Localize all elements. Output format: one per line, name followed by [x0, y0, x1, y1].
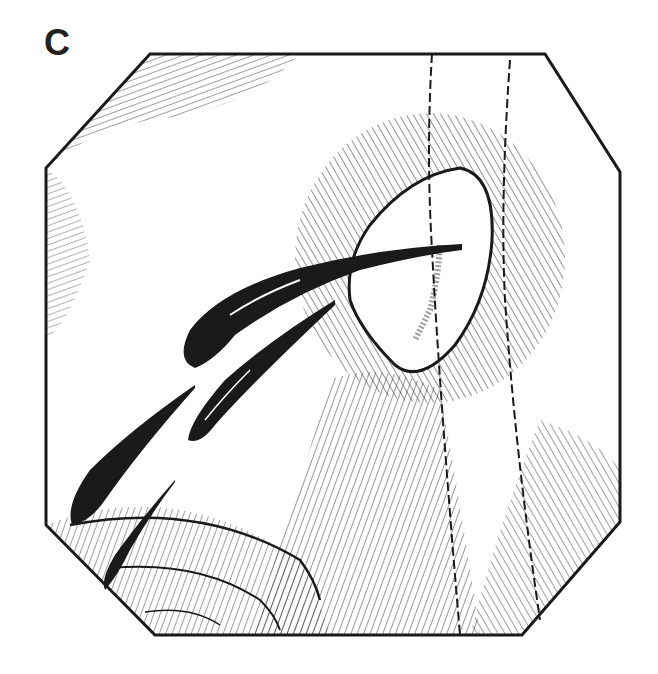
hatched-regions [46, 54, 620, 635]
illustration [0, 0, 658, 674]
